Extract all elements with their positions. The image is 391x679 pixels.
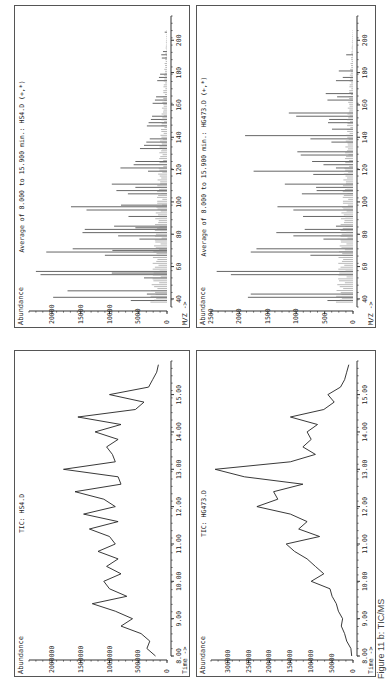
svg-text:60: 60	[175, 263, 183, 271]
svg-text:15.00: 15.00	[361, 385, 369, 405]
svg-text:100: 100	[361, 196, 369, 208]
svg-text:1000: 1000	[292, 308, 300, 324]
svg-text:2500: 2500	[207, 308, 215, 324]
svg-text:14.00: 14.00	[361, 422, 369, 442]
svg-text:180: 180	[361, 67, 369, 79]
svg-text:500000: 500000	[134, 649, 142, 673]
svg-text:160: 160	[175, 99, 183, 111]
tic-hg473-chart: 0500001000001500002000002500003000008.00…	[197, 351, 375, 676]
svg-text:Time ->: Time ->	[367, 647, 375, 674]
svg-text:120: 120	[175, 164, 183, 176]
svg-text:13.00: 13.00	[175, 459, 183, 479]
svg-text:TIC: HS4.D: TIC: HS4.D	[18, 494, 26, 533]
svg-text:TIC: HG473.D: TIC: HG473.D	[200, 490, 208, 537]
svg-text:13.00: 13.00	[361, 459, 369, 479]
svg-text:50000: 50000	[328, 653, 336, 673]
svg-text:80: 80	[175, 230, 183, 238]
svg-text:9.00: 9.00	[361, 611, 369, 627]
svg-text:200000: 200000	[265, 649, 273, 673]
svg-text:Abundance: Abundance	[17, 636, 25, 674]
tic-hg473-panel: 0500001000001500002000002500003000008.00…	[196, 350, 376, 677]
svg-text:M/Z ->: M/Z ->	[367, 301, 375, 325]
svg-text:11.00: 11.00	[361, 534, 369, 554]
svg-text:15.00: 15.00	[175, 385, 183, 405]
svg-text:2000: 2000	[235, 308, 243, 324]
svg-text:160: 160	[361, 99, 369, 111]
svg-text:120: 120	[361, 164, 369, 176]
svg-text:500: 500	[321, 312, 329, 324]
svg-text:Abundance: Abundance	[199, 287, 207, 325]
svg-text:80: 80	[361, 230, 369, 238]
svg-text:0: 0	[349, 669, 357, 673]
ms-hs4-panel: 0500010000150002000040608010012014016018…	[14, 5, 190, 328]
svg-text:60: 60	[361, 263, 369, 271]
svg-text:2000000: 2000000	[48, 646, 56, 673]
svg-text:150000: 150000	[286, 649, 294, 673]
svg-text:100000: 100000	[307, 649, 315, 673]
svg-text:12.00: 12.00	[361, 497, 369, 517]
svg-text:Abundance: Abundance	[199, 636, 207, 674]
svg-text:1500: 1500	[264, 308, 272, 324]
ms-hg473-chart: 0500100015002000250040608010012014016018…	[197, 6, 375, 327]
svg-text:0: 0	[163, 320, 171, 324]
svg-text:140: 140	[361, 131, 369, 143]
svg-text:180: 180	[175, 67, 183, 79]
svg-text:1000000: 1000000	[106, 646, 114, 673]
ms-hs4-chart: 0500010000150002000040608010012014016018…	[15, 6, 189, 327]
svg-text:Time ->: Time ->	[181, 647, 189, 674]
svg-text:Abundance: Abundance	[17, 287, 25, 325]
svg-text:12.00: 12.00	[175, 497, 183, 517]
ms-hg473-panel: 0500100015002000250040608010012014016018…	[196, 5, 376, 328]
svg-text:14.00: 14.00	[175, 422, 183, 442]
svg-text:Average of 8.000 to 15.900 min: Average of 8.000 to 15.900 min.: HG473.D…	[200, 76, 208, 256]
tic-hs4-panel: 05000001000000150000020000008.009.0010.0…	[14, 350, 190, 677]
svg-text:Average of 8.000 to 15.900 min: Average of 8.000 to 15.900 min.: HS4.D (…	[18, 80, 26, 252]
svg-text:10.00: 10.00	[361, 571, 369, 591]
svg-text:15000: 15000	[77, 304, 85, 324]
figure-caption: Figure 11 b: TIC/MS	[376, 599, 386, 679]
svg-text:M/Z ->: M/Z ->	[181, 301, 189, 325]
svg-text:200: 200	[361, 34, 369, 46]
svg-text:200: 200	[175, 34, 183, 46]
svg-text:20000: 20000	[48, 304, 56, 324]
svg-text:0: 0	[163, 669, 171, 673]
svg-text:100: 100	[175, 196, 183, 208]
svg-text:9.00: 9.00	[175, 611, 183, 627]
svg-text:250000: 250000	[245, 649, 253, 673]
svg-text:5000: 5000	[134, 308, 142, 324]
svg-text:10.00: 10.00	[175, 571, 183, 591]
svg-text:0: 0	[349, 320, 357, 324]
svg-text:1500000: 1500000	[77, 646, 85, 673]
svg-text:10000: 10000	[106, 304, 114, 324]
tic-hs4-chart: 05000001000000150000020000008.009.0010.0…	[15, 351, 189, 676]
svg-text:140: 140	[175, 131, 183, 143]
svg-text:11.00: 11.00	[175, 534, 183, 554]
